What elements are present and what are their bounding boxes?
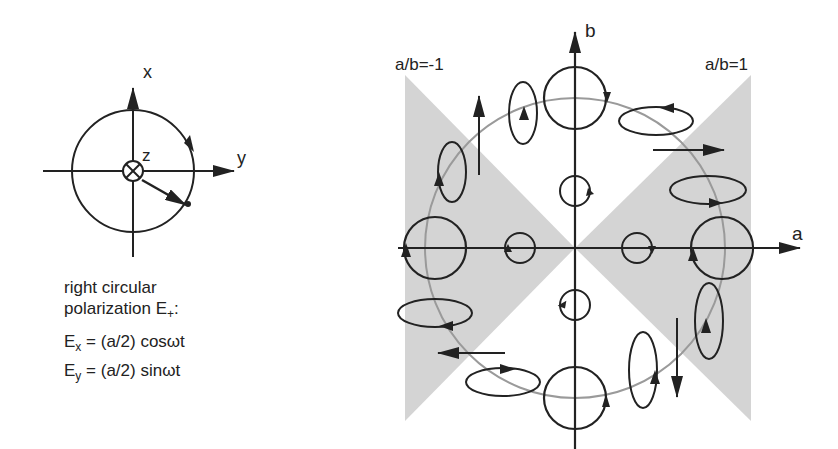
region-label-plus1: a/b=1 — [705, 55, 748, 74]
polarization-map: b a a/b=-1 a/b=1 — [395, 20, 803, 449]
equation-ex: Ex = (a/2) cosωt — [64, 332, 185, 354]
y-axis-label: y — [237, 148, 246, 168]
b-axis-label: b — [585, 20, 596, 41]
field-vector — [142, 180, 186, 205]
caption-line2: polarization E+: — [64, 298, 179, 325]
z-axis-label: z — [142, 146, 151, 165]
a-axis-label: a — [792, 223, 803, 244]
state-ellipse-lr2 — [629, 332, 657, 408]
polarization-caption: right circular polarization E+: — [64, 277, 179, 325]
circular-polarization-sketch: x y z — [43, 62, 246, 257]
x-axis-label: x — [143, 62, 152, 82]
caption-line1: right circular — [64, 277, 179, 298]
equation-ey: Ey = (a/2) sinωt — [64, 361, 180, 383]
region-label-minus1: a/b=-1 — [395, 55, 444, 74]
